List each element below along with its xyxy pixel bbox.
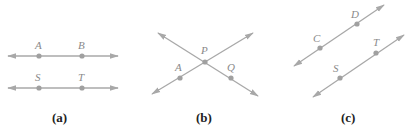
point-d (354, 21, 359, 26)
panel-b: P A Q (b) (152, 33, 258, 125)
point-p (202, 59, 207, 64)
point-a (177, 75, 182, 80)
line-ap (152, 33, 253, 94)
label-a: A (34, 39, 42, 51)
point-t (373, 50, 378, 55)
point-c (317, 45, 322, 50)
label-c: C (313, 32, 321, 44)
panel-c: C D S T (c) (294, 5, 404, 125)
caption-b: (b) (196, 110, 212, 125)
line-cd (294, 5, 384, 66)
label-s: S (333, 62, 339, 74)
line-pq (158, 33, 258, 96)
point-a (36, 53, 41, 58)
label-d: D (350, 8, 359, 20)
label-p: P (200, 44, 208, 56)
label-t: T (373, 36, 380, 48)
panel-a: A B S T (a) (8, 39, 118, 125)
label-s: S (35, 71, 41, 83)
point-s (36, 85, 41, 90)
label-a: A (174, 61, 182, 73)
caption-c: (c) (341, 110, 355, 125)
label-b: B (78, 39, 85, 51)
label-q: Q (227, 61, 235, 73)
lines-diagram: A B S T (a) P A Q (b) C D S T (c) (0, 0, 407, 130)
caption-a: (a) (52, 110, 67, 125)
point-b (79, 53, 84, 58)
label-t: T (78, 71, 85, 83)
point-t (79, 85, 84, 90)
point-q (228, 75, 233, 80)
point-s (337, 75, 342, 80)
